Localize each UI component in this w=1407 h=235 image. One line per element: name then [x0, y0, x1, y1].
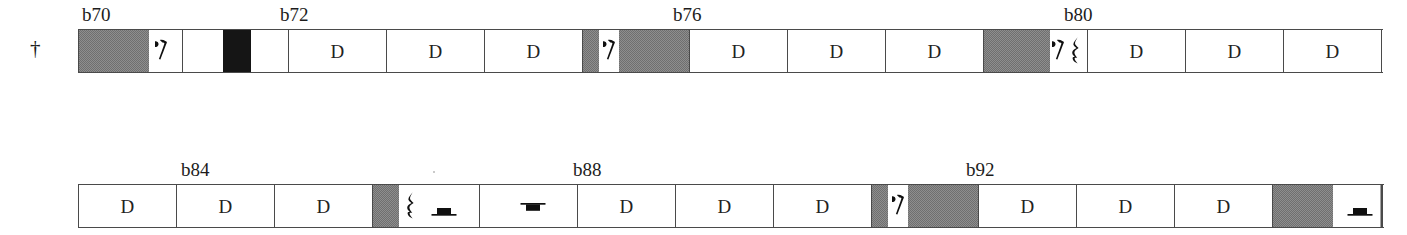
staff-system-2: b84b88b92 DDDDDDDDD: [0, 155, 1407, 235]
measure[interactable]: D: [1088, 30, 1186, 72]
staff-1: DDDDDDDDD: [78, 29, 1383, 73]
measure[interactable]: D: [886, 30, 984, 72]
dark-highlight-block: [223, 30, 251, 72]
eighth-rest-icon: [155, 38, 168, 64]
staff-2: DDDDDDDDD: [78, 184, 1384, 228]
bar-number-b92: b92: [966, 160, 995, 179]
measure-label: D: [330, 42, 344, 61]
score-sheet: † b70b72b76b80 DDDDDDDDD b84b88b92 DDDDD…: [0, 0, 1407, 235]
page-speck: [433, 171, 435, 173]
measure[interactable]: D: [676, 185, 774, 227]
shaded-highlight-block: [908, 185, 978, 227]
measure-label: D: [120, 197, 134, 216]
measure-label: D: [815, 197, 829, 216]
measure[interactable]: D: [387, 30, 485, 72]
eighth-rest-icon: [892, 193, 905, 219]
measure[interactable]: D: [774, 185, 872, 227]
measure-label: D: [1118, 197, 1132, 216]
measure[interactable]: [79, 30, 183, 72]
measure-label: D: [1129, 42, 1143, 61]
bar-number-b88: b88: [573, 160, 602, 179]
shaded-highlight-block: [583, 30, 599, 72]
measure-label: D: [829, 42, 843, 61]
quarter-rest-icon: [405, 191, 417, 221]
shaded-highlight-block: [984, 30, 1050, 72]
measure[interactable]: D: [177, 185, 275, 227]
dagger-icon: †: [30, 38, 41, 59]
staff-system-1: † b70b72b76b80 DDDDDDDDD: [0, 0, 1407, 100]
measure-label: D: [717, 197, 731, 216]
measure[interactable]: D: [79, 185, 177, 227]
measure-label: D: [927, 42, 941, 61]
measure-label: D: [428, 42, 442, 61]
measure[interactable]: [583, 30, 690, 72]
measure[interactable]: [480, 185, 578, 227]
measure-label: D: [1216, 197, 1230, 216]
measure[interactable]: D: [1077, 185, 1175, 227]
measure[interactable]: D: [275, 185, 373, 227]
bar-number-b84: b84: [181, 160, 210, 179]
measure[interactable]: [984, 30, 1088, 72]
measure[interactable]: D: [690, 30, 788, 72]
whole-rest-icon: [520, 200, 546, 214]
measure[interactable]: [183, 30, 289, 72]
half-rest-icon: [1347, 205, 1373, 219]
measure[interactable]: D: [289, 30, 387, 72]
quarter-rest-icon: [1070, 36, 1082, 66]
measure[interactable]: D: [979, 185, 1077, 227]
measure-label: D: [731, 42, 745, 61]
measure-label: D: [1227, 42, 1241, 61]
measure[interactable]: D: [485, 30, 583, 72]
bar-number-b70: b70: [82, 5, 111, 24]
measure[interactable]: D: [1284, 30, 1382, 72]
shaded-highlight-block: [373, 185, 399, 227]
shaded-highlight-block: [1273, 185, 1333, 227]
measure-label: D: [526, 42, 540, 61]
measure-label: D: [1325, 42, 1339, 61]
measure-label: D: [619, 197, 633, 216]
measure[interactable]: D: [788, 30, 886, 72]
bar-number-b80: b80: [1064, 5, 1093, 24]
shaded-highlight-block: [619, 30, 689, 72]
eighth-rest-icon: [603, 38, 616, 64]
measure[interactable]: D: [1175, 185, 1273, 227]
measure[interactable]: [872, 185, 979, 227]
bar-number-b72: b72: [280, 5, 309, 24]
eighth-rest-icon: [1052, 38, 1065, 64]
shaded-highlight-block: [79, 30, 149, 72]
bar-number-b76: b76: [673, 5, 702, 24]
shaded-highlight-block: [872, 185, 888, 227]
half-rest-icon: [431, 205, 457, 219]
measure-label: D: [1020, 197, 1034, 216]
measure-label: D: [316, 197, 330, 216]
measure[interactable]: D: [578, 185, 676, 227]
measure[interactable]: [1273, 185, 1383, 227]
measure[interactable]: [373, 185, 480, 227]
measure[interactable]: D: [1186, 30, 1284, 72]
measure-label: D: [218, 197, 232, 216]
